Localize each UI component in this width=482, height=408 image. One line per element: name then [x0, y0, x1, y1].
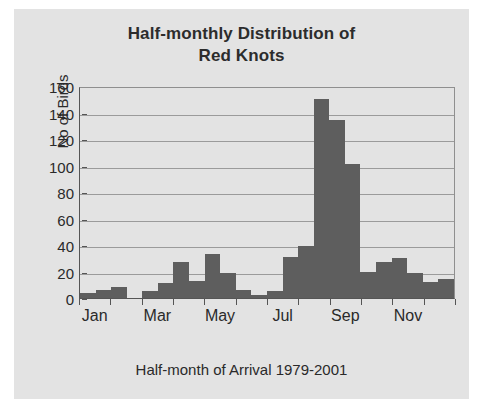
x-axis-tick-mark	[236, 299, 237, 305]
bar	[360, 272, 376, 299]
bar	[267, 291, 283, 298]
chart-frame: Half-monthly Distribution of Red Knots N…	[14, 9, 469, 399]
bar-slot	[345, 88, 361, 298]
y-axis-tick-label: 140	[28, 105, 74, 122]
bar	[80, 293, 96, 298]
x-axis-tick-label: May	[205, 307, 235, 325]
x-axis-tick-mark	[298, 299, 299, 305]
bar-slot	[142, 88, 158, 298]
x-axis-tick-label: Jan	[82, 307, 108, 325]
bar	[220, 273, 236, 298]
bar	[345, 164, 361, 298]
bar	[173, 262, 189, 298]
bar-slot	[251, 88, 267, 298]
y-axis-tick-label: 80	[28, 185, 74, 202]
x-axis-tick-mark	[173, 299, 174, 305]
bar-slot	[283, 88, 299, 298]
bar	[251, 295, 267, 298]
x-axis-tick-mark	[142, 299, 143, 305]
bar	[111, 287, 127, 298]
bar	[298, 246, 314, 298]
bar-slot	[376, 88, 392, 298]
bar	[189, 281, 205, 298]
bar-series	[80, 88, 454, 298]
x-axis-tick-mark	[204, 299, 205, 305]
y-axis-tick-label: 40	[28, 238, 74, 255]
x-axis-tick-label: Mar	[144, 307, 172, 325]
x-axis-tick-mark	[330, 299, 331, 305]
x-axis-tick-mark	[110, 299, 111, 305]
x-axis-tick-marks	[79, 299, 455, 307]
bar-slot	[111, 88, 127, 298]
bar	[205, 254, 221, 298]
bar-slot	[173, 88, 189, 298]
y-axis-tick-label: 160	[28, 79, 74, 96]
x-axis-title: Half-month of Arrival 1979-2001	[14, 361, 469, 378]
x-axis-tick-mark	[424, 299, 425, 305]
bar-slot	[329, 88, 345, 298]
bar	[283, 257, 299, 298]
x-axis-tick-label: Sep	[331, 307, 359, 325]
bar-slot	[267, 88, 283, 298]
bar	[392, 258, 408, 298]
bar	[407, 273, 423, 298]
bar-slot	[80, 88, 96, 298]
bar-slot	[236, 88, 252, 298]
bar-slot	[438, 88, 454, 298]
y-axis-tick-label: 0	[28, 291, 74, 308]
x-axis-tick-mark	[79, 299, 80, 305]
bar-slot	[360, 88, 376, 298]
chart-title-line-2: Red Knots	[14, 45, 469, 67]
bar	[142, 291, 158, 298]
y-axis-tick-labels: 020406080100120140160	[22, 9, 74, 399]
x-axis-tick-label: Nov	[394, 307, 422, 325]
bar-slot	[314, 88, 330, 298]
chart-title-line-1: Half-monthly Distribution of	[14, 23, 469, 45]
bar	[314, 99, 330, 298]
x-axis-tick-mark	[392, 299, 393, 305]
bar-slot	[423, 88, 439, 298]
bar-slot	[392, 88, 408, 298]
bar	[158, 283, 174, 298]
x-axis-tick-mark	[361, 299, 362, 305]
plot-area	[79, 87, 455, 299]
x-axis-tick-mark	[455, 299, 456, 305]
bar-slot	[96, 88, 112, 298]
bar-slot	[298, 88, 314, 298]
bar	[438, 279, 454, 298]
bar-slot	[407, 88, 423, 298]
bar-slot	[158, 88, 174, 298]
bar	[329, 120, 345, 298]
y-axis-tick-label: 60	[28, 211, 74, 228]
bar	[236, 290, 252, 298]
y-axis-tick-label: 100	[28, 158, 74, 175]
x-axis-tick-mark	[267, 299, 268, 305]
y-axis-tick-label: 20	[28, 264, 74, 281]
bar-slot	[205, 88, 221, 298]
chart-title: Half-monthly Distribution of Red Knots	[14, 23, 469, 67]
bar	[423, 282, 439, 298]
x-axis-tick-label: Jul	[272, 307, 292, 325]
bar-slot	[189, 88, 205, 298]
bar	[96, 290, 112, 298]
bar	[376, 262, 392, 298]
x-axis-tick-labels: JanMarMayJulSepNov	[79, 307, 455, 331]
bar-slot	[127, 88, 143, 298]
y-axis-tick-label: 120	[28, 132, 74, 149]
bar-slot	[220, 88, 236, 298]
